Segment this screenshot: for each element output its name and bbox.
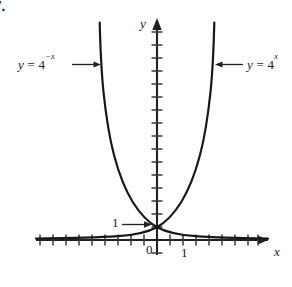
y-axis-arrowhead xyxy=(152,18,161,30)
right-curve-label: y = 4x xyxy=(247,57,278,71)
right-curve-label-y: y xyxy=(247,57,253,72)
x-tick-one-label: 1 xyxy=(181,246,188,259)
x-axis-arrowhead xyxy=(258,235,268,244)
left-curve-label-equals: = xyxy=(27,57,35,72)
left-curve-label: y = 4−x xyxy=(18,57,55,71)
left-label-arrow xyxy=(72,61,101,67)
right-label-arrow xyxy=(215,61,243,67)
right-curve-label-exponent: x xyxy=(274,51,278,61)
y-intercept-label: 1 xyxy=(112,216,119,229)
origin-label: 0 xyxy=(146,243,153,256)
x-axis-label: x xyxy=(274,245,280,258)
right-curve-label-equals: = xyxy=(256,57,264,72)
left-curve-label-y: y xyxy=(18,57,24,72)
y-intercept-arrow xyxy=(122,221,152,228)
curve-4-pow-x xyxy=(36,23,214,239)
left-curve-label-exponent: −x xyxy=(45,51,55,61)
curve-4-pow-neg-x xyxy=(100,23,268,239)
y-axis-label: y xyxy=(140,17,146,30)
